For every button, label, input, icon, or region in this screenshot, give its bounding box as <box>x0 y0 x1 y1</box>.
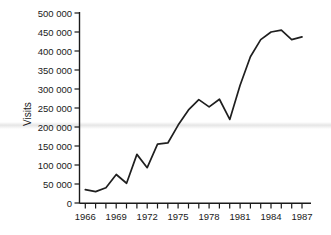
data-series-line <box>85 30 302 192</box>
y-tick-label: 0 <box>14 198 72 209</box>
y-tick-marks <box>75 13 80 203</box>
y-tick-label: 350 000 <box>14 65 72 76</box>
y-tick-label: 400 000 <box>14 46 72 57</box>
y-tick-label: 100 000 <box>14 160 72 171</box>
y-tick-label: 200 000 <box>14 122 72 133</box>
y-tick-label: 50 000 <box>14 179 72 190</box>
x-tick-marks <box>85 204 302 209</box>
y-tick-label: 250 000 <box>14 103 72 114</box>
line-chart-visits: Visits <box>0 0 331 235</box>
y-tick-label: 150 000 <box>14 141 72 152</box>
y-tick-label: 300 000 <box>14 84 72 95</box>
y-tick-label: 450 000 <box>14 27 72 38</box>
y-tick-label: 500 000 <box>14 8 72 19</box>
x-tick-label: 1987 <box>280 211 324 222</box>
